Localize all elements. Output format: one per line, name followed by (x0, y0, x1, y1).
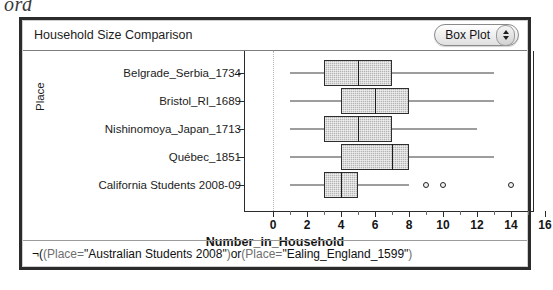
filter-value-1: "Australian Students 2008" (84, 247, 227, 261)
filter-operator-1: = (77, 247, 84, 261)
x-axis-minor-tick-mark (494, 211, 495, 215)
box-plot-outlier[interactable] (423, 182, 429, 188)
y-axis-tick-label: Nishinomoya_Japan_1713 (105, 123, 241, 135)
filter-value-2: "Ealing_England_1599" (282, 247, 408, 261)
x-axis-minor-tick-mark (358, 211, 359, 215)
x-axis-tick-mark (477, 211, 478, 217)
y-axis-title: Place (34, 82, 46, 111)
x-axis-tick-label: 14 (504, 218, 517, 232)
box-plot-median-line (375, 88, 376, 114)
filter-operator-2: = (275, 247, 282, 261)
x-axis-tick-mark (511, 211, 512, 217)
y-axis-tick-label: Québec_1851 (169, 151, 241, 163)
x-axis-tick-label: 16 (538, 218, 551, 232)
triangle-up-icon[interactable] (503, 30, 509, 34)
x-axis-tick-mark (443, 211, 444, 217)
y-axis-tick-mark (238, 157, 244, 158)
x-axis-tick-mark (545, 211, 546, 217)
filter-close-2: ) (408, 247, 412, 261)
page-title: Household Size Comparison (34, 28, 192, 42)
filter-field-2: (Place (241, 247, 275, 261)
x-axis-tick-mark (341, 211, 342, 217)
box-plot-whisker (290, 73, 494, 74)
x-axis-minor-tick-mark (392, 211, 393, 215)
x-axis-tick-label: 0 (270, 218, 277, 232)
y-axis-tick-mark (238, 185, 244, 186)
x-axis-tick-mark (307, 211, 308, 217)
x-axis-minor-tick-mark (528, 211, 529, 215)
x-axis-tick-label: 12 (470, 218, 483, 232)
box-plot-outlier[interactable] (440, 182, 446, 188)
x-axis-tick-label: 6 (372, 218, 379, 232)
x-axis-minor-tick-mark (460, 211, 461, 215)
box-plot-median-line (358, 116, 359, 142)
y-axis-tick-mark (238, 129, 244, 130)
y-axis-tick-label: Bristol_RI_1689 (159, 95, 241, 107)
x-axis-line (244, 211, 534, 212)
stepper-control[interactable] (496, 25, 515, 46)
filter-field-1: (Place (43, 247, 77, 261)
box-plot-outlier[interactable] (508, 182, 514, 188)
x-axis-tick-label: 10 (436, 218, 449, 232)
x-axis-tick-mark (273, 211, 274, 217)
box-plot-median-line (358, 60, 359, 86)
filter-conjunction: or (231, 247, 242, 261)
plot-region: Place Belgrade_Serbia_1734Bristol_RI_168… (23, 51, 527, 241)
chart-window: Household Size Comparison Box Plot Place… (19, 17, 531, 270)
box-plot-median-line (341, 172, 342, 198)
x-axis-tick-label: 2 (304, 218, 311, 232)
x-axis-tick-mark (409, 211, 410, 217)
filter-expression-bar[interactable]: ¬( (Place = "Australian Students 2008" )… (23, 240, 527, 266)
y-axis-tick-mark (238, 101, 244, 102)
x-axis-minor-tick-mark (290, 211, 291, 215)
plot-type-value: Box Plot (445, 28, 496, 42)
x-axis-minor-tick-mark (324, 211, 325, 215)
x-axis-tick-label: 8 (406, 218, 413, 232)
box-plot-box[interactable] (341, 144, 409, 170)
x-axis-tick-label: 4 (338, 218, 345, 232)
title-bar: Household Size Comparison Box Plot (23, 21, 527, 51)
x-axis-minor-tick-mark (426, 211, 427, 215)
cropped-text-fragment: ord (4, 0, 33, 16)
chart-window-inner: Household Size Comparison Box Plot Place… (22, 20, 528, 267)
triangle-down-icon[interactable] (503, 36, 509, 40)
plot-type-dropdown[interactable]: Box Plot (434, 24, 519, 46)
y-axis-tick-labels: Belgrade_Serbia_1734Bristol_RI_1689Nishi… (51, 51, 241, 206)
zero-gridline (273, 51, 274, 211)
y-axis-tick-mark (238, 73, 244, 74)
x-axis-tick-mark (375, 211, 376, 217)
plot-right-edge (533, 51, 534, 211)
y-axis-tick-label: Belgrade_Serbia_1734 (123, 67, 241, 79)
filter-not-operator: ¬( (32, 247, 43, 261)
y-axis-tick-label: California Students 2008-09 (98, 179, 241, 191)
box-plot-median-line (392, 144, 393, 170)
